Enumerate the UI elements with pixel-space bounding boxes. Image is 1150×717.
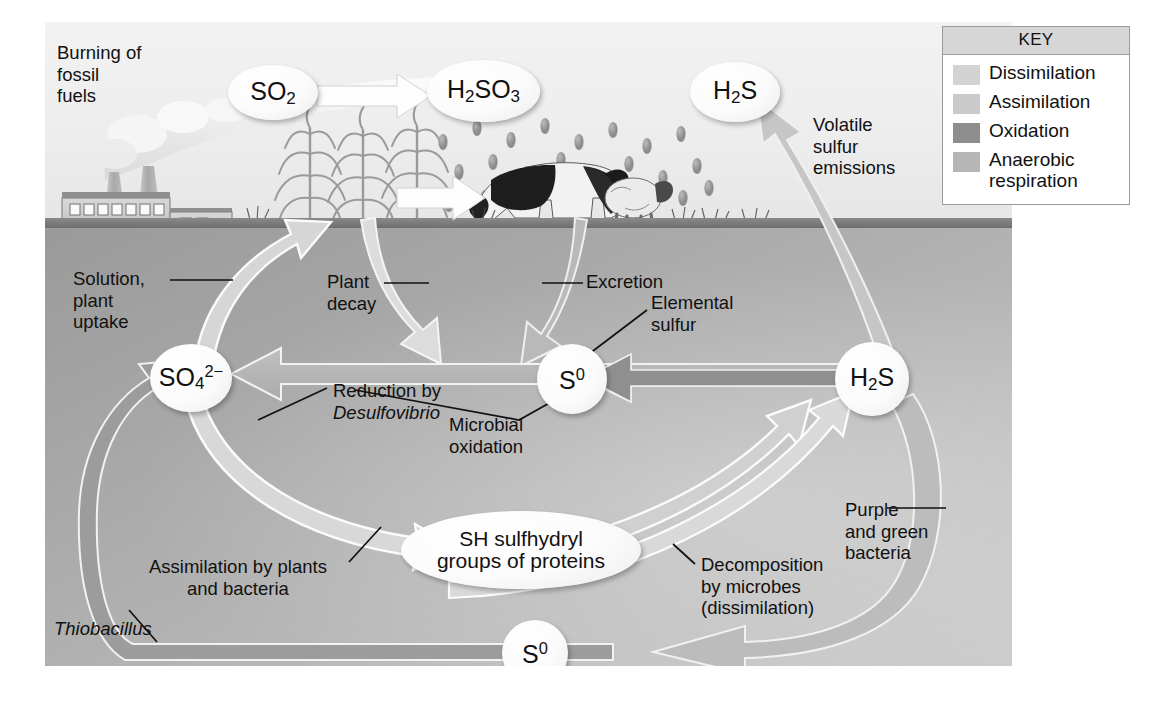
key-swatch-oxidation [953,123,980,143]
arrow-so2-to-h2so3 [317,74,431,118]
key-item-dissimilation: Dissimilation [953,63,1121,85]
label-burning-fossil-fuels: Burning of fossil fuels [57,42,141,107]
key-label-anaerobic-respiration: Anaerobic respiration [989,150,1078,192]
key-legend: KEY Dissimilation Assimilation Oxidation… [942,26,1130,205]
node-elemental-sulfur-center: S0 [537,344,607,414]
key-header: KEY [943,27,1129,55]
label-decomposition-by-microbes: Decomposition by microbes (dissimilation… [701,554,823,619]
node-sh-sulfhydryl-proteins: SH sulfhydryl groups of proteins [401,511,641,589]
key-item-anaerobic-respiration: Anaerobic respiration [953,150,1121,192]
node-h2s-atmosphere: H2S [690,62,780,122]
figure-canvas: SO2 H2SO3 H2S SO42− S0 H2S SH sulfhydryl… [0,0,1150,717]
key-swatch-dissimilation [953,65,980,85]
key-label-assimilation: Assimilation [989,92,1090,113]
label-elemental-sulfur: Elemental sulfur [651,292,733,335]
label-volatile-sulfur-emissions: Volatile sulfur emissions [813,114,895,179]
key-label-dissimilation: Dissimilation [989,63,1096,84]
sh-line-1: SH sulfhydryl [459,527,583,550]
node-h2so3: H2SO3 [427,60,540,122]
label-excretion: Excretion [586,271,663,293]
label-solution-plant-uptake: Solution, plant uptake [73,268,145,333]
label-microbial-oxidation: Microbial oxidation [449,414,523,457]
sh-line-2: groups of proteins [437,549,605,572]
label-plant-decay: Plant decay [327,271,376,314]
label-reduction-by: Reduction by [333,380,441,402]
label-purple-and-green-bacteria: Purple and green bacteria [845,499,928,564]
key-swatch-anaerobic-respiration [953,152,980,172]
label-desulfovibrio: Desulfovibrio [333,402,440,424]
node-so2: SO2 [228,65,318,120]
node-sulfate: SO42− [150,344,232,412]
key-item-oxidation: Oxidation [953,121,1121,143]
arrow-h2s-to-s0-oxidation [585,354,845,402]
key-item-list: Dissimilation Assimilation Oxidation Ana… [943,55,1129,204]
label-thiobacillus: Thiobacillus [54,618,152,640]
label-assimilation-by-plants-bacteria: Assimilation by plants and bacteria [149,556,327,599]
key-item-assimilation: Assimilation [953,92,1121,114]
node-h2s-soil: H2S [835,342,909,416]
arrow-plants-to-livestock [397,176,485,220]
key-label-oxidation: Oxidation [989,121,1069,142]
key-swatch-assimilation [953,94,980,114]
arrow-solution-plant-uptake [197,220,331,352]
sulfur-cycle-diagram: SO2 H2SO3 H2S SO42− S0 H2S SH sulfhydryl… [45,22,1012,666]
